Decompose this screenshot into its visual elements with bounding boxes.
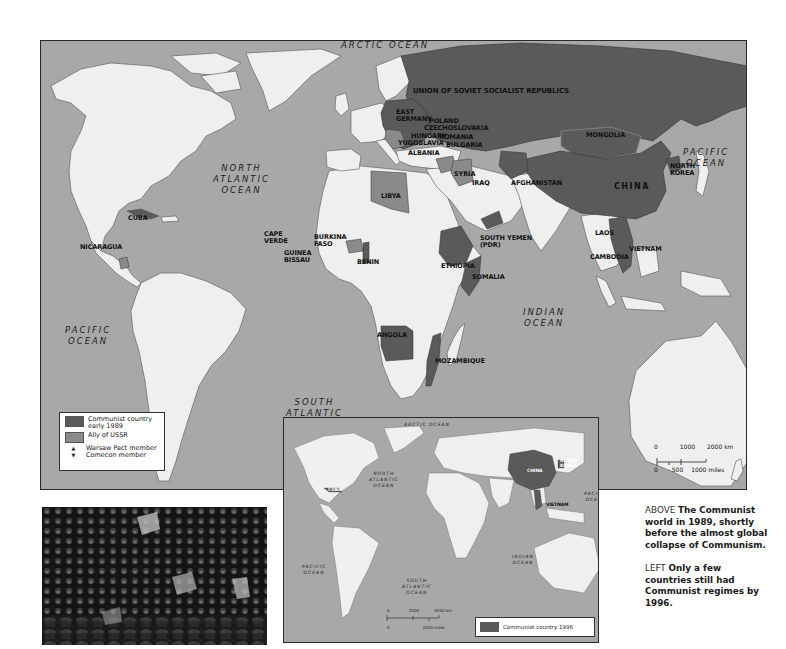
country-label-bulgaria: BULGARIA (446, 142, 482, 149)
inset-country-label-north-korea: NORTH KOREA (560, 458, 577, 468)
country-label-south-yemen: SOUTH YEMEN (PDR) (480, 235, 532, 249)
crowd-photo-image (42, 507, 267, 645)
country-label-cuba: CUBA (128, 215, 148, 222)
inset-country-label-china: CHINA (527, 468, 543, 473)
legend-item-communist-1989: Communist country early 1989 (65, 416, 159, 430)
country-label-mozambique: MOZAMBIQUE (435, 358, 485, 365)
legend-item-ally-ussr: Ally of USSR (65, 432, 159, 443)
main-map-legend: Communist country early 1989 Ally of USS… (59, 412, 165, 471)
inset-scale: 0 2000 4000 km 0 2000 miles (383, 610, 463, 634)
inset-ocean-label-pacific-west: PACIFIC OCEAN (302, 564, 326, 576)
ocean-label-north-atlantic: NORTH ATLANTIC OCEAN (213, 163, 270, 196)
country-label-cambodia: CAMBODIA (590, 254, 629, 261)
country-label-angola: ANGOLA (377, 332, 407, 339)
country-label-afghanistan: AFGHANISTAN (511, 180, 562, 187)
triangle-up-icon: ▲ (65, 445, 82, 451)
country-label-ethiopia: ETHIOPIA (441, 263, 475, 270)
inset-ocean-label-north-atlantic: NORTH ATLANTIC OCEAN (369, 471, 399, 489)
main-scale-miles: 0 500 1000 miles (654, 466, 724, 474)
country-label-libya: LIBYA (381, 193, 401, 200)
country-label-romania: ROMANIA (439, 134, 473, 141)
inset-ocean-label-arctic: ARCTIC OCEAN (404, 422, 450, 428)
country-label-yugoslavia: YUGOSLAVIA (398, 140, 444, 147)
country-label-syria: SYRIA (454, 171, 475, 178)
inset-country-label-vietnam: VIETNAM (546, 502, 568, 507)
country-label-guinea-bissau: GUINEA BISSAU (284, 250, 311, 264)
country-label-mongolia: MONGOLIA (586, 132, 625, 139)
ocean-label-arctic: ARCTIC OCEAN (341, 40, 429, 51)
inset-country-label-cuba: CUBA (328, 487, 341, 492)
country-label-albania: ALBANIA (408, 150, 439, 157)
country-label-cape-verde: CAPE VERDE (264, 231, 288, 245)
swatch-ally (65, 432, 84, 443)
country-label-benin: BENIN (357, 259, 379, 266)
main-scale-km: 0 1000 2000 km (654, 443, 733, 451)
figure-caption: ABOVE The Communist world in 1989, short… (645, 505, 770, 621)
triangle-down-icon: ▼ (65, 452, 82, 458)
caption-left: LEFT Only a few countries still had Comm… (645, 563, 770, 610)
caption-above: ABOVE The Communist world in 1989, short… (645, 505, 770, 552)
swatch-communist (65, 416, 84, 427)
legend-item-comecon: ▼ Comecon member (65, 452, 159, 459)
inset-ocean-label-indian: INDIAN OCEAN (512, 554, 534, 566)
country-label-ussr: UNION OF SOVIET SOCIALIST REPUBLICS (413, 88, 569, 95)
country-label-laos: LAOS (595, 230, 614, 237)
swatch-communist-1996 (480, 622, 499, 632)
country-label-china: CHINA (614, 183, 650, 190)
country-label-nicaragua: NICARAGUA (80, 244, 122, 251)
country-label-czechoslovakia: CZECHOSLOVAKIA (424, 125, 488, 132)
country-label-vietnam: VIETNAM (629, 246, 662, 253)
country-label-iraq: IRAQ (472, 180, 490, 187)
country-label-somalia: SOMALIA (472, 274, 505, 281)
country-label-north-korea: NORTH KOREA (670, 163, 695, 177)
country-label-burkina-faso: BURKINA FASO (314, 234, 346, 248)
ocean-label-indian: INDIAN OCEAN (523, 307, 565, 329)
inset-ocean-label-pacific-east: PACIFIC OCEAN (584, 491, 599, 503)
inset-map-legend: Communist country 1996 (475, 617, 595, 637)
ocean-label-pacific-west: PACIFIC OCEAN (65, 325, 111, 347)
country-label-east-germany: EAST GERMANY (396, 109, 432, 123)
inset-ocean-label-south-atlantic: SOUTH ATLANTIC OCEAN (402, 578, 432, 596)
crowd-photo (42, 507, 267, 645)
